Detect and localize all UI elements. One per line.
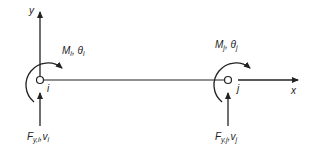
moment-j-arrow — [214, 63, 250, 102]
beam-diagram — [0, 0, 312, 151]
force-j-label: Fy,j,vj — [215, 132, 237, 143]
moment-j-label: Mj, θj — [215, 40, 237, 51]
moment-i-label: Mi, θi — [62, 46, 84, 57]
x-axis-label: x — [291, 86, 296, 96]
node-i-circle — [37, 77, 44, 84]
moment-i-arrow — [26, 63, 62, 102]
node-i-label: i — [47, 84, 49, 94]
node-j-circle — [225, 77, 232, 84]
node-j-label: j — [237, 84, 239, 94]
y-axis-label: y — [29, 6, 34, 16]
force-i-label: Fy,i,vi — [27, 132, 49, 143]
